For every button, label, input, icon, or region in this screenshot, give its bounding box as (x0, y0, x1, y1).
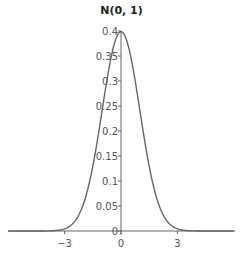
y-tick-label: 0.3 (102, 76, 118, 87)
y-tick-label: 0.4 (102, 26, 118, 37)
x-tick-label: −3 (57, 238, 72, 249)
chart-plot: −30300.050.10.150.20.250.30.350.4 (0, 0, 243, 261)
y-tick-label: 0.15 (96, 151, 118, 162)
y-tick-label: 0 (112, 226, 118, 237)
y-tick-label: 0.2 (102, 126, 118, 137)
axes: −30300.050.10.150.20.250.30.350.4 (8, 26, 235, 249)
y-tick-label: 0.1 (102, 176, 118, 187)
y-tick-label: 0.25 (96, 101, 118, 112)
x-tick-label: 3 (174, 238, 180, 249)
y-tick-label: 0.05 (96, 201, 118, 212)
x-tick-label: 0 (118, 238, 124, 249)
y-tick-label: 0.35 (96, 51, 118, 62)
